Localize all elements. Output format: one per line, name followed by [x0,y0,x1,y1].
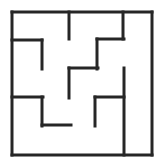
maze-canvas [0,0,165,168]
maze-figure [0,0,165,168]
figure-background [0,0,165,168]
